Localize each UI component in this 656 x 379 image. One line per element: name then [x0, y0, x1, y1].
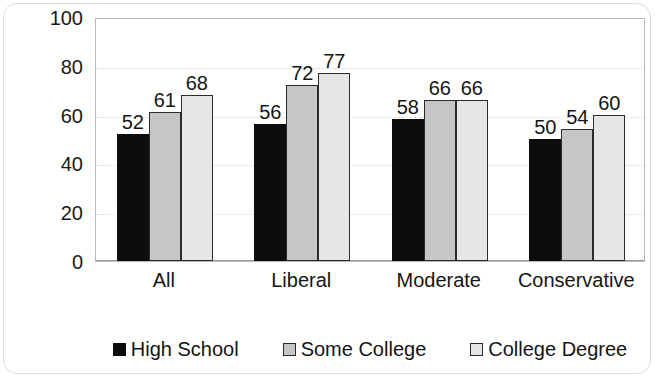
- bar-liberal-college-degree[interactable]: 77: [318, 73, 350, 261]
- bar-all-college-degree[interactable]: 68: [181, 95, 213, 261]
- legend-label: High School: [131, 339, 239, 359]
- legend-label: Some College: [301, 339, 427, 359]
- legend-item-high-school[interactable]: High School: [113, 339, 239, 359]
- bar-value-label: 56: [259, 102, 281, 122]
- bar-value-label: 58: [397, 97, 419, 117]
- bar-value-label: 50: [534, 117, 556, 137]
- x-axis-label-all: All: [95, 270, 233, 290]
- x-axis-label-conservative: Conservative: [508, 270, 646, 290]
- bars: 567277: [234, 19, 372, 261]
- bar-value-label: 52: [122, 112, 144, 132]
- x-axis-label-moderate: Moderate: [370, 270, 508, 290]
- plot-area: 526168567277586666505460: [95, 18, 645, 262]
- bar-group-liberal: 567277: [234, 19, 372, 261]
- bars: 586666: [371, 19, 509, 261]
- y-axis-tick-100: 100: [0, 8, 95, 28]
- legend-item-some-college[interactable]: Some College: [283, 339, 427, 359]
- bar-value-label: 60: [598, 93, 620, 113]
- bar-group-conservative: 505460: [509, 19, 647, 261]
- bar-moderate-high-school[interactable]: 58: [392, 119, 424, 261]
- y-axis-tick-20: 20: [0, 203, 95, 223]
- bar-value-label: 72: [291, 63, 313, 83]
- y-axis-tick-0: 0: [0, 252, 95, 272]
- legend-item-college-degree[interactable]: College Degree: [470, 339, 627, 359]
- bar-value-label: 68: [186, 73, 208, 93]
- bar-moderate-college-degree[interactable]: 66: [456, 100, 488, 261]
- bar-group-all: 526168: [96, 19, 234, 261]
- bar-all-some-college[interactable]: 61: [149, 112, 181, 261]
- bar-moderate-some-college[interactable]: 66: [424, 100, 456, 261]
- grouped-bar-chart: 020406080100 526168567277586666505460 Al…: [0, 0, 656, 379]
- chart-legend: High SchoolSome CollegeCollege Degree: [95, 339, 645, 359]
- bar-conservative-high-school[interactable]: 50: [529, 139, 561, 261]
- legend-label: College Degree: [488, 339, 627, 359]
- legend-swatch-icon: [470, 343, 483, 356]
- bar-value-label: 77: [323, 51, 345, 71]
- bar-conservative-college-degree[interactable]: 60: [593, 115, 625, 261]
- bars: 505460: [509, 19, 647, 261]
- legend-swatch-icon: [113, 343, 126, 356]
- chart-screenshot: 020406080100 526168567277586666505460 Al…: [0, 0, 656, 379]
- bar-group-moderate: 586666: [371, 19, 509, 261]
- bar-liberal-some-college[interactable]: 72: [286, 85, 318, 261]
- bar-value-label: 66: [429, 78, 451, 98]
- bars: 526168: [96, 19, 234, 261]
- bar-value-label: 66: [461, 78, 483, 98]
- bar-value-label: 54: [566, 107, 588, 127]
- y-axis-tick-80: 80: [0, 57, 95, 77]
- legend-swatch-icon: [283, 343, 296, 356]
- y-axis-tick-60: 60: [0, 106, 95, 126]
- bar-liberal-high-school[interactable]: 56: [254, 124, 286, 261]
- bar-conservative-some-college[interactable]: 54: [561, 129, 593, 261]
- x-axis-label-liberal: Liberal: [233, 270, 371, 290]
- bar-value-label: 61: [154, 90, 176, 110]
- bar-all-high-school[interactable]: 52: [117, 134, 149, 261]
- y-axis-tick-40: 40: [0, 154, 95, 174]
